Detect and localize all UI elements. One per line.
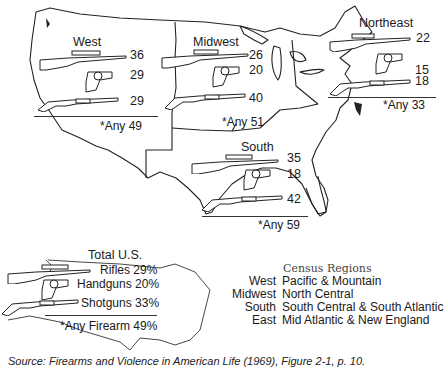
shotgun-icon: [328, 78, 412, 96]
rifles-value: 35: [287, 152, 301, 165]
shotgun-icon: [200, 194, 284, 212]
rifle-icon: [328, 32, 412, 52]
handgun-icon: [80, 68, 116, 94]
rifles-total: Rifles 29%: [100, 264, 157, 277]
handgun-icon: [207, 63, 243, 89]
shotguns-value: 42: [287, 193, 301, 206]
source-caption: Source: Firearms and Violence in America…: [8, 355, 365, 367]
handguns-value: 18: [287, 168, 301, 181]
shotguns-value: 18: [415, 75, 429, 88]
rifles-value: 26: [249, 49, 263, 62]
handguns-value: 29: [130, 69, 144, 82]
shotguns-value: 29: [130, 95, 144, 108]
shotguns-total: Shotguns 33%: [81, 297, 159, 310]
legend-definition: Mid Atlantic & New England: [282, 314, 429, 327]
rifles-value: 36: [130, 49, 144, 62]
shotgun-icon: [0, 296, 80, 316]
region-title: Northeast: [359, 17, 413, 30]
handguns-value: 20: [249, 64, 263, 77]
any-firearm-value: *Any 49: [100, 120, 142, 133]
any-firearm-value: *Any 33: [383, 99, 425, 112]
rifles-value: 22: [416, 32, 430, 45]
any-firearm-value: *Any 59: [258, 219, 300, 232]
legend-region: East: [230, 314, 276, 327]
shotgun-icon: [36, 96, 120, 112]
shotguns-value: 40: [249, 92, 263, 105]
handgun-icon: [370, 50, 406, 76]
any-firearm-total: *Any Firearm 49%: [60, 320, 157, 333]
total-title: Total U.S.: [88, 249, 142, 262]
any-firearm-value: *Any 51: [222, 116, 264, 129]
handgun-icon: [238, 166, 274, 192]
shotgun-icon: [163, 92, 247, 110]
handguns-total: Handguns 20%: [77, 278, 159, 291]
